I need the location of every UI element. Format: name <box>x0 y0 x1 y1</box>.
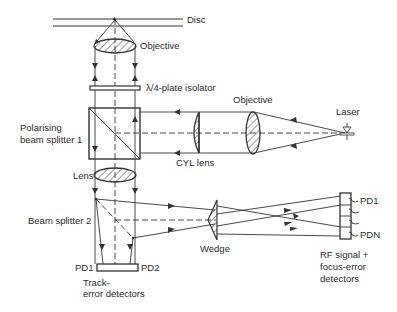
rf-label-2: focus-error <box>320 261 366 272</box>
polarising-beam-splitter-1 <box>89 108 140 159</box>
wedge <box>208 200 217 240</box>
pd1-array-label: PD1 <box>360 195 378 206</box>
track-label-1: Track- <box>83 277 110 288</box>
lens-label: Lens <box>73 170 94 181</box>
pbs-label-1: Polarising <box>20 122 62 133</box>
track-pd1-label: PD1 <box>75 262 93 273</box>
rf-label-3: detectors <box>320 273 359 284</box>
pbs-label-2: beam splitter 1 <box>20 134 82 145</box>
disc <box>53 19 183 26</box>
cyl-lens-label: CYL lens <box>176 157 214 168</box>
objective-lens-top <box>94 39 136 53</box>
rf-focus-detector-array <box>340 193 359 239</box>
quarter-wave-plate <box>90 86 140 90</box>
track-label-2: error detectors <box>83 288 145 299</box>
array-beams <box>217 196 341 236</box>
pdn-array-label: PDN <box>360 229 380 240</box>
disc-label: Disc <box>187 14 206 25</box>
beam-splitter-2 <box>96 199 133 238</box>
cylindrical-lens <box>194 112 199 153</box>
laser-label: Laser <box>336 106 360 117</box>
objective-lens-right <box>246 112 260 154</box>
laser-diode <box>340 123 354 140</box>
track-pd2-label: PD2 <box>141 262 159 273</box>
wedge-label: Wedge <box>200 243 230 254</box>
track-error-detectors <box>97 264 138 271</box>
wedge-beams <box>96 199 216 238</box>
objective-right-label: Objective <box>233 94 273 105</box>
objective-top-label: Objective <box>140 40 180 51</box>
horizontal-beams <box>115 109 345 156</box>
bs2-label: Beam splitter 2 <box>28 215 91 226</box>
lens <box>94 168 136 182</box>
rf-label-1: RF signal + <box>320 249 369 260</box>
optical-diagram: Disc Objective λ/4-plate isolator Polari… <box>0 0 397 312</box>
quarter-wave-label: λ/4-plate isolator <box>146 82 216 93</box>
